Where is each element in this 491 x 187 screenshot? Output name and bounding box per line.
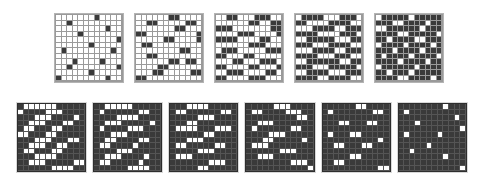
lattice-cell-off (384, 166, 390, 172)
lattice-panel (244, 102, 315, 173)
lattice-panel (321, 102, 392, 173)
lattice-panel (134, 13, 204, 83)
grid-density-figure (0, 0, 491, 187)
lattice-grid (55, 14, 123, 82)
lattice-grid (215, 14, 283, 82)
lattice-grid (93, 103, 162, 172)
lattice-panel (168, 102, 239, 173)
lattice-grid (17, 103, 86, 172)
lattice-grid (398, 103, 467, 172)
lattice-cell-on (156, 166, 162, 172)
lattice-cell-off (357, 76, 363, 82)
lattice-grid (169, 103, 238, 172)
lattice-panel (214, 13, 284, 83)
lattice-cell-off (277, 76, 283, 82)
lattice-panel (374, 13, 444, 83)
lattice-panel (92, 102, 163, 173)
lattice-cell-off (117, 76, 123, 82)
panel-row-bottom (16, 102, 473, 173)
lattice-panel (294, 13, 364, 83)
lattice-panel (16, 102, 87, 173)
lattice-cell-off (460, 166, 466, 172)
lattice-cell-on (437, 76, 443, 82)
lattice-grid (375, 14, 443, 82)
lattice-panel (397, 102, 468, 173)
lattice-cell-off (197, 76, 203, 82)
lattice-panel (54, 13, 124, 83)
lattice-grid (245, 103, 314, 172)
lattice-cell-on (232, 166, 238, 172)
lattice-cell-on (80, 166, 86, 172)
lattice-grid (135, 14, 203, 82)
lattice-grid (322, 103, 391, 172)
panel-row-top (54, 13, 444, 83)
lattice-grid (295, 14, 363, 82)
lattice-cell-off (308, 166, 314, 172)
